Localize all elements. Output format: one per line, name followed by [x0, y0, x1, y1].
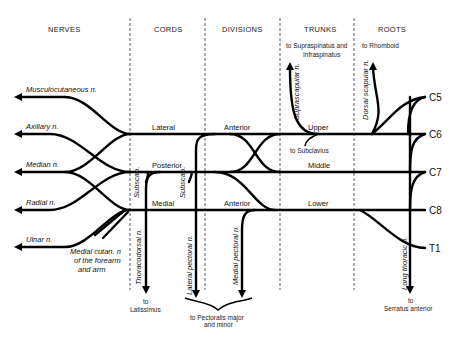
thoracodorsal-nerve: [146, 172, 160, 288]
arrow-ulnar-icon: [14, 243, 22, 251]
medial-pectoral-nerve: [242, 210, 255, 292]
t1-to-lower: [360, 210, 425, 248]
header-cords: CORDS: [154, 25, 183, 34]
note-serratus-1: to: [408, 297, 414, 304]
label-lateral-cord: Lateral: [152, 123, 175, 132]
label-anterior-division-2: Anterior: [224, 199, 251, 208]
label-medial-cutan-3: and arm: [78, 265, 106, 274]
arrow-radial-icon: [14, 206, 22, 214]
note-supraspinatus-1: to Supraspinatus and: [286, 42, 348, 50]
header-trunks: TRUNKS: [304, 25, 337, 34]
label-axillary: Axillary n.: [25, 122, 59, 131]
label-anterior-division-1: Anterior: [224, 123, 251, 132]
note-subclavius: to Subclavius: [290, 147, 329, 154]
arrow-medial-pectoral-icon: [238, 290, 246, 298]
subclavius-branch: [305, 134, 318, 146]
note-serratus-2: Serratus anterior: [384, 305, 433, 312]
header-roots: ROOTS: [378, 25, 406, 34]
middle-anterior-division: [230, 134, 280, 172]
arrow-musculocutaneous-icon: [14, 93, 22, 101]
c7-branch: [410, 172, 425, 210]
subscap-lower: [189, 172, 192, 182]
root-c6: C6: [429, 129, 442, 140]
note-latissimus-2: Latissimus: [130, 306, 161, 313]
dorsal-scapular-nerve: [372, 68, 379, 134]
label-medial-cord: Medial: [152, 199, 174, 208]
arrow-median-icon: [14, 168, 22, 176]
label-middle-trunk: Middle: [308, 161, 330, 170]
root-c7: C7: [429, 167, 442, 178]
note-pectoralis-2: and minor: [204, 321, 234, 328]
label-medial-cutan-2: of the forearm: [74, 256, 121, 265]
label-median: Median n.: [26, 160, 59, 169]
header-divisions: DIVISIONS: [222, 25, 263, 34]
c6-branch: [410, 134, 425, 172]
label-dorsal-scapular: Dorsal scapular n.: [361, 60, 370, 120]
label-lateral-pectoral: Lateral pectoral n.: [185, 235, 194, 295]
root-c5: C5: [429, 92, 442, 103]
label-ulnar: Ulnar n.: [26, 235, 52, 244]
label-long-thoracic: Long thoracic n.: [400, 237, 409, 290]
note-supraspinatus-2: Infraspinatus: [303, 51, 341, 59]
label-lower-trunk: Lower: [308, 199, 329, 208]
arrow-dorsal-scapular-icon: [369, 62, 377, 70]
note-latissimus-1: to: [143, 298, 149, 305]
label-subscap-1: Subscap.: [132, 167, 141, 198]
header-nerves: NERVES: [48, 25, 81, 34]
root-t1: T1: [429, 243, 441, 254]
arrow-axillary-icon: [14, 130, 22, 138]
label-thoracodorsal: Thoracodorsal n.: [134, 229, 143, 285]
label-suprascapular: Suprascapular n.: [292, 63, 301, 120]
brachial-plexus-diagram: NERVES CORDS DIVISIONS TRUNKS ROOTS: [0, 0, 465, 339]
brace-pectoralis: [185, 298, 252, 310]
label-radial: Radial n.: [26, 198, 56, 207]
note-rhomboid: to Rhomboid: [362, 42, 399, 49]
median-medial-root: [65, 172, 130, 210]
lateral-pectoral-nerve: [196, 134, 215, 292]
root-c8: C8: [429, 205, 442, 216]
label-medial-pectoral: Medial pectoral n.: [231, 226, 240, 285]
label-upper-trunk: Upper: [308, 123, 329, 132]
label-subscap-2: Subscap.: [178, 167, 187, 198]
label-musculocutaneous: Musculocutaneous n.: [26, 85, 97, 94]
label-medial-cutan-1: Medial cutan. n: [70, 247, 121, 256]
arrow-thoracodorsal-icon: [142, 286, 150, 294]
